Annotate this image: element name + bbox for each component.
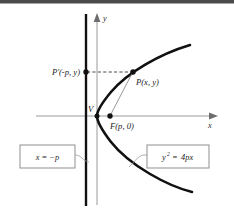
parabola-figure: P'(-p, y) P(x, y) F(p, 0) V x y x = −p y… (0, 0, 234, 221)
label-point-p-prime: P'(-p, y) (51, 67, 80, 77)
axes-group (36, 13, 218, 205)
callout-directrix-equation: x = −p (20, 145, 89, 168)
label-point-p: P(x, y) (135, 77, 159, 87)
point-marker-p-prime (83, 69, 88, 74)
callout-parabola-equation: y 2 = 4px (129, 145, 209, 168)
label-x-axis: x (207, 121, 212, 130)
label-y-axis: y (102, 14, 107, 23)
y-axis-arrowhead (94, 13, 101, 22)
callout-text-parabola-exponent: 2 (167, 151, 170, 157)
point-marker-vertex (95, 114, 100, 119)
point-marker-p (130, 69, 135, 74)
point-marker-focus (107, 113, 112, 118)
callout-text-parabola-equals: = (172, 153, 178, 162)
callout-text-parabola-base: y (161, 153, 166, 162)
parabola-curve (97, 45, 192, 192)
callout-text-directrix: x = −p (35, 153, 59, 162)
callout-text-parabola-rhs: 4px (181, 153, 193, 162)
top-border-band (0, 0, 234, 4)
x-axis-arrowhead (209, 113, 218, 120)
figure-canvas: P'(-p, y) P(x, y) F(p, 0) V x y x = −p y… (0, 0, 234, 221)
segment-p-to-focus (111, 74, 133, 116)
label-point-vertex: V (88, 104, 95, 114)
label-point-focus: F(p, 0) (109, 121, 134, 131)
callout-box-parabola (147, 145, 209, 168)
